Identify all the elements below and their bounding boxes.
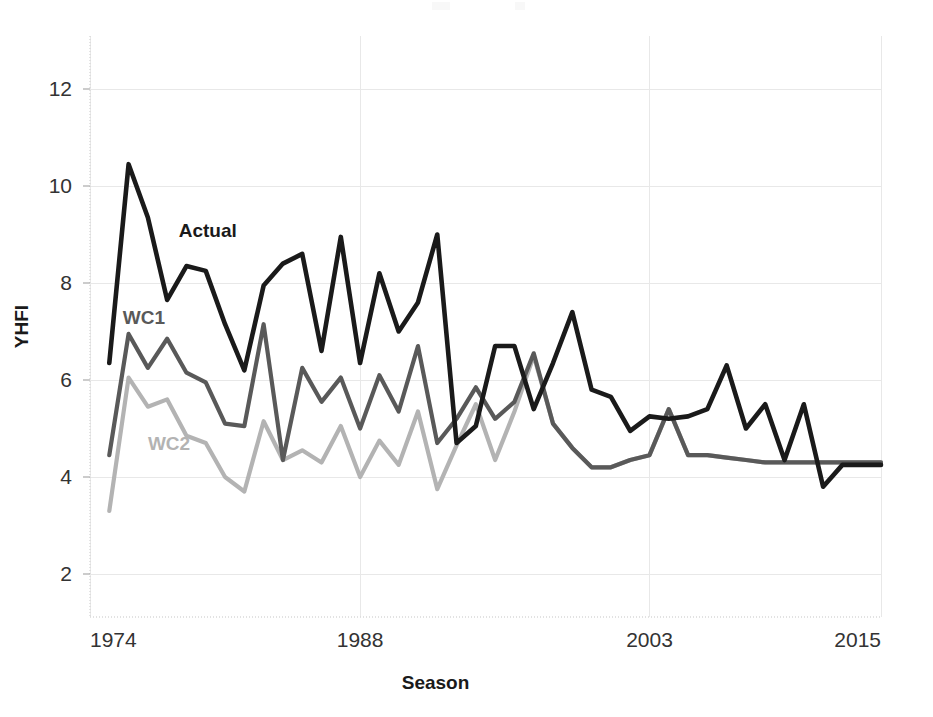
y-tick-label: 2 xyxy=(60,562,72,585)
x-tick-label: 1988 xyxy=(337,628,384,651)
x-axis-title: Season xyxy=(402,672,470,693)
gridlines-group xyxy=(90,36,881,617)
y-tick-label: 10 xyxy=(49,174,72,197)
series-annotation-wc2: WC2 xyxy=(148,433,190,454)
x-axis-tick-labels: 1974198820032015 xyxy=(90,628,881,651)
series-annotation-wc1: WC1 xyxy=(123,307,166,328)
series-line-actual xyxy=(109,164,881,487)
x-tick-label: 2015 xyxy=(834,628,881,651)
y-tick-label: 4 xyxy=(60,465,72,488)
y-tick-label: 8 xyxy=(60,271,72,294)
y-tick-label: 12 xyxy=(49,77,72,100)
series-annotation-actual: Actual xyxy=(179,220,237,241)
y-axis-tick-labels: 24681012 xyxy=(49,77,90,585)
series-paths-group xyxy=(109,164,881,511)
y-tick-label: 6 xyxy=(60,368,72,391)
series-line-wc2 xyxy=(109,356,881,511)
x-tick-label: 1974 xyxy=(90,628,137,651)
x-tick-label: 2003 xyxy=(626,628,673,651)
y-axis-title: YHFI xyxy=(11,305,32,348)
chart-figure: 24681012 1974198820032015 YHFI Season Ac… xyxy=(0,0,933,717)
line-chart-svg: 24681012 1974198820032015 YHFI Season Ac… xyxy=(0,0,933,717)
